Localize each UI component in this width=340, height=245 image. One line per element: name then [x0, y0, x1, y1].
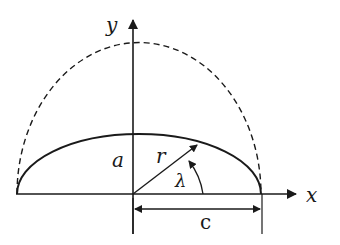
semi-minor-label-a: a	[112, 148, 124, 172]
dashed-outer-arc	[17, 43, 261, 194]
y-axis-label: y	[105, 13, 118, 37]
radius-label-r: r	[156, 144, 167, 168]
solid-ellipse-arc	[17, 134, 261, 194]
semi-major-label-c: c	[200, 210, 211, 234]
x-axis-label: x	[306, 183, 317, 207]
angle-label-lambda: λ	[174, 170, 186, 191]
ellipse-diagram: y x a r λ c	[0, 0, 340, 245]
angle-arc	[189, 161, 203, 194]
